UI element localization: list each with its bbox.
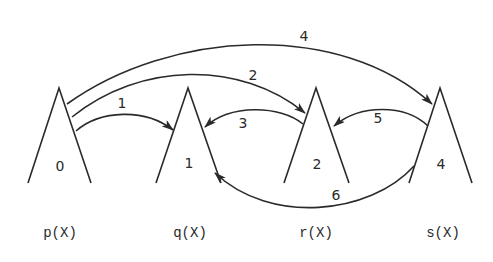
edge-6-label: 6 <box>332 187 341 203</box>
tree-q: 1 q(X) <box>156 88 221 241</box>
edge-5-arrow: 5 <box>334 110 428 127</box>
edge-5-label: 5 <box>374 110 383 126</box>
edge-2-arrow: 2 <box>72 67 305 117</box>
tree-s-label: s(X) <box>426 225 460 241</box>
tree-r: 2 r(X) <box>284 88 349 241</box>
edge-3-label: 3 <box>239 115 248 131</box>
edge-3-arrow: 3 <box>205 110 303 131</box>
tree-s: 4 s(X) <box>409 88 472 241</box>
tree-s-value: 4 <box>437 156 446 172</box>
edge-1-label: 1 <box>118 95 127 111</box>
tree-q-value: 1 <box>185 155 194 171</box>
edge-4-arrow: 4 <box>67 28 432 104</box>
edge-6-arrow: 6 <box>215 166 414 208</box>
tree-p-label: p(X) <box>43 225 77 241</box>
tree-r-label: r(X) <box>299 225 333 241</box>
tree-r-value: 2 <box>313 156 322 172</box>
tree-p-value: 0 <box>56 158 65 174</box>
edge-1-arrow: 1 <box>76 95 173 131</box>
edge-2-label: 2 <box>249 67 258 83</box>
tree-p: 0 p(X) <box>28 88 91 241</box>
edge-4-label: 4 <box>300 28 309 44</box>
tree-q-label: q(X) <box>173 225 207 241</box>
call-graph-diagram: 0 p(X) 1 q(X) 2 r(X) 4 s(X) 1 2 3 4 5 <box>0 0 493 262</box>
